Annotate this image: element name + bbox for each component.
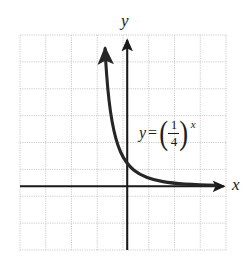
equation-equals-sign: = [148,125,157,141]
equation-fraction: 1 4 [168,118,179,148]
fraction-denominator: 4 [170,135,179,149]
equation-annotation: y = ( 1 4 ) x [139,118,196,148]
equation-close-paren: ) [180,119,189,147]
equation-open-paren: ( [159,119,168,147]
graph-canvas [0,0,251,266]
fraction-numerator: 1 [170,118,179,132]
equation-exponent: x [191,119,196,130]
y-axis-label: y [121,12,129,29]
equation-lhs: y [139,125,146,141]
exponential-decay-graph-figure: y x y = ( 1 4 ) x [0,0,251,266]
x-axis-label: x [232,176,240,193]
